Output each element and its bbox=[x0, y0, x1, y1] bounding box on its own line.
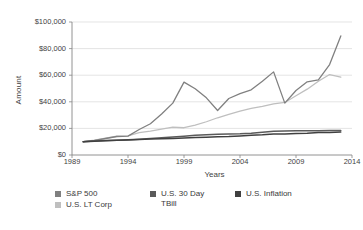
y-tick-label: $80,000 bbox=[18, 44, 66, 53]
x-tick-label: 1994 bbox=[106, 157, 150, 166]
legend-swatch-icon bbox=[55, 202, 61, 208]
legend-item[interactable]: S&P 500 bbox=[55, 189, 97, 199]
chart-legend: S&P 500U.S. LT CorpU.S. 30 Day TBillU.S.… bbox=[55, 189, 355, 223]
x-tick-label: 1989 bbox=[50, 157, 94, 166]
legend-label: S&P 500 bbox=[66, 189, 97, 199]
x-tick-label: 1999 bbox=[162, 157, 206, 166]
y-tick-label: $40,000 bbox=[18, 97, 66, 106]
legend-swatch-icon bbox=[150, 191, 156, 197]
legend-label: U.S. Inflation bbox=[246, 189, 292, 199]
series-line bbox=[83, 36, 341, 142]
series-line bbox=[83, 75, 341, 142]
legend-label: U.S. LT Corp bbox=[66, 200, 112, 210]
legend-label: U.S. 30 Day TBill bbox=[161, 189, 204, 209]
legend-swatch-icon bbox=[235, 191, 241, 197]
legend-item[interactable]: U.S. LT Corp bbox=[55, 200, 112, 210]
x-axis-title: Years bbox=[72, 170, 357, 179]
y-tick-label: $100,000 bbox=[18, 17, 66, 26]
legend-swatch-icon bbox=[55, 191, 61, 197]
x-tick-label: 2014 bbox=[330, 157, 363, 166]
chart-container: Amount Years $0$20,000$40,000$60,000$80,… bbox=[0, 0, 363, 230]
x-tick-label: 2004 bbox=[218, 157, 262, 166]
x-tick-label: 2009 bbox=[274, 157, 318, 166]
y-tick-label: $20,000 bbox=[18, 123, 66, 132]
y-axis-title: Amount bbox=[14, 60, 23, 120]
y-tick-label: $60,000 bbox=[18, 70, 66, 79]
legend-item[interactable]: U.S. 30 Day TBill bbox=[150, 189, 204, 209]
legend-item[interactable]: U.S. Inflation bbox=[235, 189, 292, 199]
